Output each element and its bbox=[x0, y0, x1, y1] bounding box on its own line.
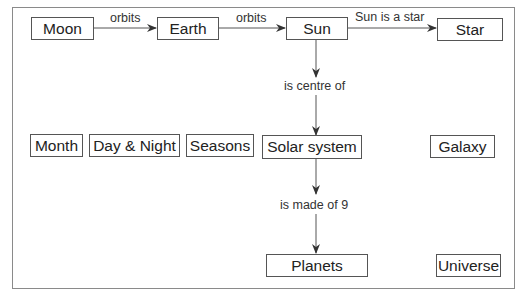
edge-label-solar-system-planets: is made of 9 bbox=[280, 198, 348, 212]
node-solar-system: Solar system bbox=[262, 135, 362, 159]
node-galaxy: Galaxy bbox=[430, 135, 495, 158]
node-seasons: Seasons bbox=[186, 134, 254, 157]
node-planets: Planets bbox=[266, 254, 368, 277]
node-universe: Universe bbox=[436, 254, 501, 277]
node-day-night: Day & Night bbox=[89, 134, 180, 157]
edge-label-moon-earth: orbits bbox=[110, 11, 141, 25]
node-sun: Sun bbox=[286, 17, 348, 40]
node-moon: Moon bbox=[31, 17, 94, 40]
edge-label-earth-sun: orbits bbox=[236, 11, 267, 25]
edge-label-sun-solar-system: is centre of bbox=[284, 79, 345, 93]
edge-label-sun-star: Sun is a star bbox=[355, 10, 424, 24]
node-star: Star bbox=[437, 18, 503, 41]
node-earth: Earth bbox=[157, 17, 219, 40]
node-month: Month bbox=[30, 134, 83, 157]
